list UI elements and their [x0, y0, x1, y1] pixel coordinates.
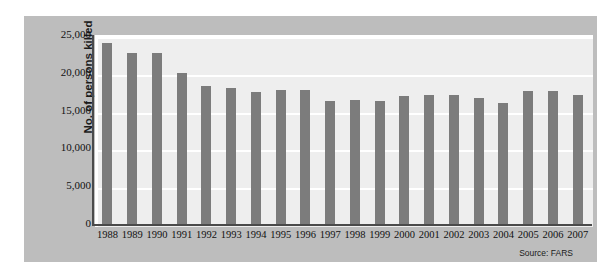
chart-panel: No. of persons killed 05,00010,00015,000… — [22, 14, 597, 262]
bar-1988 — [102, 43, 112, 224]
source-note: Source: FARS — [519, 248, 573, 258]
y-axis-line — [92, 35, 94, 225]
bar-2003 — [474, 98, 484, 224]
bar-1992 — [201, 86, 211, 224]
bar-2001 — [424, 95, 434, 224]
y-tick-label: 15,000 — [31, 105, 91, 116]
bar-1997 — [325, 101, 335, 224]
bar-1998 — [350, 100, 360, 224]
bar-1991 — [177, 73, 187, 224]
x-axis-line — [92, 224, 592, 226]
bar-1993 — [226, 88, 236, 224]
y-tick-label: 0 — [31, 218, 91, 229]
bar-2005 — [523, 91, 533, 224]
bar-1996 — [300, 90, 310, 224]
bar-1994 — [251, 92, 261, 224]
bar-2006 — [548, 91, 558, 224]
chart-figure: No. of persons killed 05,00010,00015,000… — [0, 0, 604, 278]
bar-2007 — [573, 95, 583, 224]
bar-2004 — [498, 103, 508, 224]
bar-1990 — [152, 53, 162, 224]
x-axis-tick-labels: 1988198919901991199219931994199519961997… — [95, 228, 595, 244]
y-tick-label: 25,000 — [31, 29, 91, 40]
bar-series — [95, 35, 590, 224]
bar-2000 — [399, 96, 409, 224]
y-tick-label: 10,000 — [31, 142, 91, 153]
bar-1999 — [375, 101, 385, 224]
bar-1989 — [127, 53, 137, 224]
y-tick-label: 5,000 — [31, 180, 91, 191]
y-tick-label: 20,000 — [31, 67, 91, 78]
bar-1995 — [276, 90, 286, 224]
x-tick-label-2007: 2007 — [561, 228, 595, 242]
bar-2002 — [449, 95, 459, 224]
